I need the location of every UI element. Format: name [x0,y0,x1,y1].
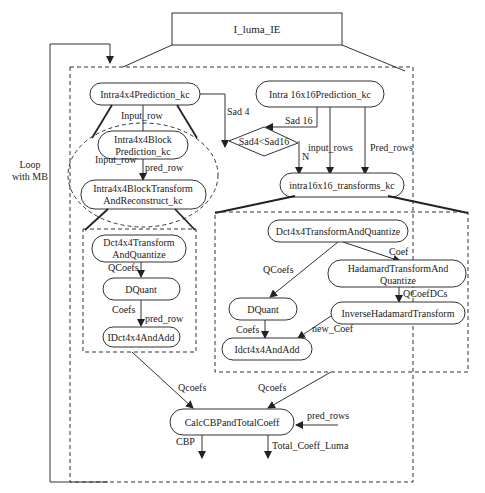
svg-text:Dct4x4Transform: Dct4x4Transform [103,237,175,248]
svg-text:Dct4x4TransformAndQuantize: Dct4x4TransformAndQuantize [276,226,401,237]
svg-text:pred_row: pred_row [145,162,184,173]
svg-text:Intra4x4Block: Intra4x4Block [114,134,172,145]
svg-text:pred_row: pred_row [145,313,184,324]
title-box: I_luma_IE [172,13,342,45]
svg-text:Intra 16x16Prediction_kc: Intra 16x16Prediction_kc [269,89,371,100]
svg-text:Pred_rows: Pred_rows [370,142,413,153]
svg-text:QCoefs: QCoefs [108,262,139,273]
svg-text:Input_row: Input_row [121,110,163,121]
svg-text:IDct4x4AndAdd: IDct4x4AndAdd [107,332,174,343]
svg-text:Qcoefs: Qcoefs [178,382,206,393]
svg-text:pred_rows: pred_rows [307,410,349,421]
loop-line [50,44,110,482]
title-label: I_luma_IE [233,23,280,35]
svg-text:new_Coef: new_Coef [312,323,354,334]
svg-text:CalcCBPandTotalCoeff: CalcCBPandTotalCoeff [185,417,280,428]
svg-text:Coefs: Coefs [112,304,135,315]
svg-text:Intra4x4Prediction_kc: Intra4x4Prediction_kc [100,89,190,100]
svg-text:Coef: Coef [389,246,409,257]
svg-text:Input_row: Input_row [95,154,137,165]
svg-text:AndReconstruct_kc: AndReconstruct_kc [103,195,183,206]
loop-label-2: with MB [12,171,48,182]
svg-text:AndQuantize: AndQuantize [112,249,166,260]
svg-text:Sad4<Sad16: Sad4<Sad16 [239,136,290,147]
svg-text:Qcoefs: Qcoefs [258,382,286,393]
svg-text:intra16x16_transforms_kc: intra16x16_transforms_kc [289,180,395,191]
svg-text:InverseHadamardTransform: InverseHadamardTransform [342,308,455,319]
svg-text:HadamardTransformAnd: HadamardTransformAnd [348,263,449,274]
svg-text:CBP: CBP [176,436,195,447]
svg-text:Total_Coeff_Luma: Total_Coeff_Luma [272,440,349,451]
svg-text:Quantize: Quantize [380,275,417,286]
svg-text:input_rows: input_rows [308,142,353,153]
loop-label-1: Loop [19,159,40,170]
svg-text:DQuant: DQuant [125,284,157,295]
svg-text:Sad 16: Sad 16 [285,115,313,126]
svg-text:Sad 4: Sad 4 [227,106,250,117]
svg-text:DQuant: DQuant [247,304,279,315]
svg-text:Coefs: Coefs [236,324,259,335]
svg-text:Intra4x4BlockTransform: Intra4x4BlockTransform [93,183,193,194]
svg-text:QCoefDCs: QCoefDCs [403,288,448,299]
svg-text:QCoefs: QCoefs [263,264,294,275]
svg-text:Idct4x4AndAdd: Idct4x4AndAdd [235,344,300,355]
